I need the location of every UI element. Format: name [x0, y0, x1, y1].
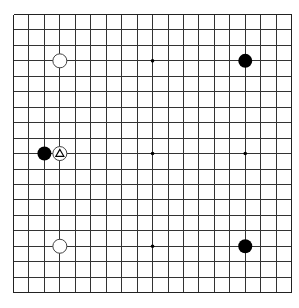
board-intersection[interactable]: [83, 53, 98, 68]
board-intersection[interactable]: [98, 285, 113, 300]
board-intersection[interactable]: [253, 99, 268, 114]
board-intersection[interactable]: [98, 269, 113, 284]
board-intersection[interactable]: [191, 161, 206, 176]
board-intersection[interactable]: [191, 115, 206, 130]
board-intersection[interactable]: [52, 254, 67, 269]
board-intersection[interactable]: [114, 115, 129, 130]
board-intersection[interactable]: [222, 22, 237, 37]
board-intersection[interactable]: [98, 239, 113, 254]
board-intersection[interactable]: [207, 269, 222, 284]
board-intersection[interactable]: [37, 192, 52, 207]
board-intersection[interactable]: [68, 84, 83, 99]
board-intersection[interactable]: [253, 69, 268, 84]
board-intersection[interactable]: [98, 223, 113, 238]
board-intersection[interactable]: [238, 161, 253, 176]
board-intersection[interactable]: [21, 22, 36, 37]
board-intersection[interactable]: [6, 239, 21, 254]
board-intersection[interactable]: [129, 7, 144, 22]
board-intersection[interactable]: [114, 239, 129, 254]
board-intersection[interactable]: [268, 146, 283, 161]
board-intersection[interactable]: [238, 22, 253, 37]
board-intersection[interactable]: [83, 192, 98, 207]
board-intersection[interactable]: [52, 269, 67, 284]
board-intersection[interactable]: [6, 22, 21, 37]
board-intersection[interactable]: [145, 177, 160, 192]
board-intersection[interactable]: [160, 208, 175, 223]
board-intersection[interactable]: [21, 192, 36, 207]
board-intersection[interactable]: [52, 208, 67, 223]
board-intersection[interactable]: [284, 208, 299, 223]
board-intersection[interactable]: [191, 239, 206, 254]
board-intersection[interactable]: [83, 161, 98, 176]
board-intersection[interactable]: [68, 130, 83, 145]
board-intersection[interactable]: [114, 146, 129, 161]
board-intersection[interactable]: [114, 208, 129, 223]
board-intersection[interactable]: [268, 254, 283, 269]
board-intersection[interactable]: [21, 254, 36, 269]
board-intersection[interactable]: [253, 146, 268, 161]
board-intersection[interactable]: [145, 239, 160, 254]
board-intersection[interactable]: [114, 99, 129, 114]
board-intersection[interactable]: [160, 53, 175, 68]
board-intersection[interactable]: [129, 177, 144, 192]
board-intersection[interactable]: [6, 177, 21, 192]
board-intersection[interactable]: [207, 192, 222, 207]
board-intersection[interactable]: [191, 269, 206, 284]
board-intersection[interactable]: [191, 130, 206, 145]
board-intersection[interactable]: [129, 208, 144, 223]
board-intersection[interactable]: [6, 7, 21, 22]
board-intersection[interactable]: [176, 177, 191, 192]
board-intersection[interactable]: [83, 208, 98, 223]
board-intersection[interactable]: [284, 115, 299, 130]
board-intersection[interactable]: [68, 22, 83, 37]
board-intersection[interactable]: [207, 38, 222, 53]
board-intersection[interactable]: [98, 22, 113, 37]
board-intersection[interactable]: [129, 115, 144, 130]
board-intersection[interactable]: [129, 130, 144, 145]
board-intersection[interactable]: [238, 285, 253, 300]
board-intersection[interactable]: [176, 53, 191, 68]
board-intersection[interactable]: [6, 192, 21, 207]
board-intersection[interactable]: [129, 192, 144, 207]
board-intersection[interactable]: [191, 38, 206, 53]
board-intersection[interactable]: [268, 115, 283, 130]
board-intersection[interactable]: [129, 161, 144, 176]
board-intersection[interactable]: [253, 130, 268, 145]
board-intersection[interactable]: [253, 192, 268, 207]
board-intersection[interactable]: [191, 99, 206, 114]
board-intersection[interactable]: [21, 115, 36, 130]
board-intersection[interactable]: [145, 285, 160, 300]
board-intersection[interactable]: [238, 84, 253, 99]
board-intersection[interactable]: [83, 130, 98, 145]
board-intersection[interactable]: [160, 146, 175, 161]
board-intersection[interactable]: [238, 254, 253, 269]
board-intersection[interactable]: [37, 254, 52, 269]
board-intersection[interactable]: [68, 161, 83, 176]
board-intersection[interactable]: [83, 99, 98, 114]
board-intersection[interactable]: [222, 269, 237, 284]
board-intersection[interactable]: [114, 53, 129, 68]
board-intersection[interactable]: [191, 53, 206, 68]
board-intersection[interactable]: [268, 7, 283, 22]
board-intersection[interactable]: [176, 269, 191, 284]
board-intersection[interactable]: [68, 269, 83, 284]
board-intersection[interactable]: [191, 7, 206, 22]
board-intersection[interactable]: [6, 161, 21, 176]
board-intersection[interactable]: [238, 69, 253, 84]
board-intersection[interactable]: [114, 285, 129, 300]
board-intersection[interactable]: [268, 161, 283, 176]
board-intersection[interactable]: [284, 161, 299, 176]
board-intersection[interactable]: [52, 130, 67, 145]
board-intersection[interactable]: [145, 38, 160, 53]
board-intersection[interactable]: [238, 146, 253, 161]
board-intersection[interactable]: [176, 38, 191, 53]
board-intersection[interactable]: [191, 285, 206, 300]
board-intersection[interactable]: [6, 285, 21, 300]
board-intersection[interactable]: [21, 53, 36, 68]
board-intersection[interactable]: [238, 38, 253, 53]
board-intersection[interactable]: [129, 53, 144, 68]
board-intersection[interactable]: [145, 84, 160, 99]
board-intersection[interactable]: [284, 7, 299, 22]
board-intersection[interactable]: [160, 254, 175, 269]
board-intersection[interactable]: [222, 239, 237, 254]
